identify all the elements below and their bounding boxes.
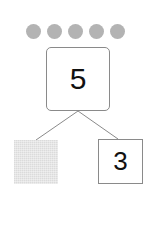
- whole-box: 5: [46, 47, 110, 111]
- whole-value: 5: [70, 62, 87, 96]
- known-part-value: 3: [113, 146, 127, 177]
- missing-part-box[interactable]: [14, 140, 58, 184]
- known-part-box: 3: [98, 139, 143, 184]
- bond-line-right: [78, 111, 118, 139]
- bond-line-left: [36, 111, 78, 140]
